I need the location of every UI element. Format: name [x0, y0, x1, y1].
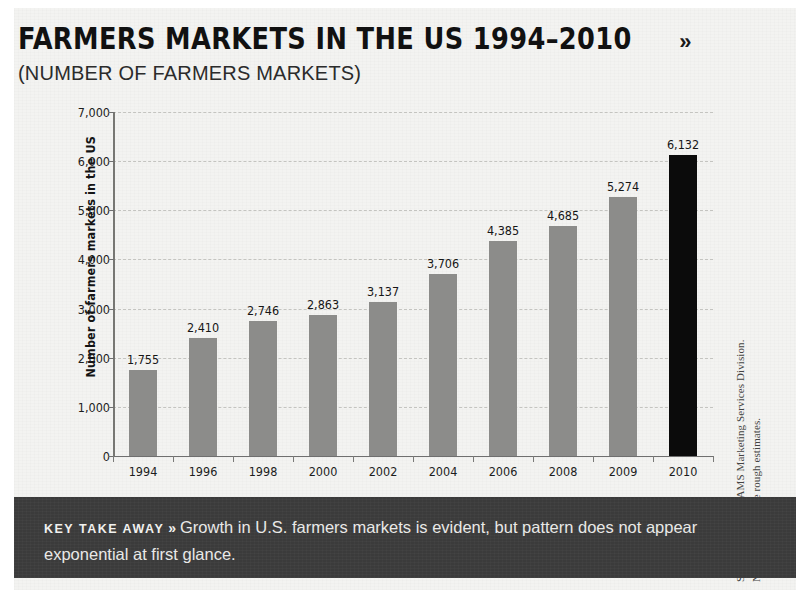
bar [309, 315, 337, 456]
x-axis-tick-labels: 1994199619982000200220042006200820092010 [113, 464, 713, 479]
chart-page: FARMERS MARKETS IN THE US 1994–2010 » (N… [0, 0, 806, 597]
x-axis-tick-label: 2004 [413, 464, 473, 479]
x-axis-tick-label: 2006 [473, 464, 533, 479]
bar-series: 1,7552,4102,7462,8633,1373,7064,3854,685… [113, 112, 713, 456]
chart-subtitle: (NUMBER OF FARMERS MARKETS) [18, 62, 758, 85]
bar [489, 241, 517, 456]
x-axis-tick-label: 2000 [293, 464, 353, 479]
bar [369, 302, 397, 456]
bar-group: 3,706 [413, 112, 473, 456]
y-axis-tick-label: 3,000 [78, 301, 110, 316]
bar-group: 2,410 [173, 112, 233, 456]
x-axis-tick-label: 1994 [113, 464, 173, 479]
x-axis-ticks [113, 456, 713, 462]
x-axis-tick-label: 1996 [173, 464, 233, 479]
y-axis-tick [108, 161, 114, 162]
title-row: FARMERS MARKETS IN THE US 1994–2010 » [18, 22, 758, 55]
x-axis-tick [713, 456, 714, 462]
x-axis-tick [473, 456, 474, 462]
key-takeaway-banner: KEY TAKE AWAY»Growth in U.S. farmers mar… [14, 497, 796, 578]
y-axis-tick [108, 259, 114, 260]
y-axis-tick [108, 358, 114, 359]
y-axis-tick-label: 7,000 [78, 105, 110, 120]
bar-group: 6,132 [653, 112, 713, 456]
x-axis-tick [233, 456, 234, 462]
bar-value-label: 2,863 [307, 297, 339, 312]
x-axis-tick-label: 2008 [533, 464, 593, 479]
y-axis-tick-label: 1,000 [78, 399, 110, 414]
bar-value-label: 1,755 [127, 352, 159, 367]
title-chevron-icon: » [679, 29, 691, 55]
x-axis-tick [353, 456, 354, 462]
bar-group: 4,685 [533, 112, 593, 456]
x-axis-tick-label: 1998 [233, 464, 293, 479]
x-axis-tick [653, 456, 654, 462]
bar-value-label: 4,685 [547, 208, 579, 223]
x-axis-tick [113, 456, 114, 462]
bar [189, 338, 217, 456]
chart-header: FARMERS MARKETS IN THE US 1994–2010 » (N… [18, 22, 758, 85]
bar-group: 1,755 [113, 112, 173, 456]
plot-area: 1,7552,4102,7462,8633,1373,7064,3854,685… [113, 112, 713, 456]
bar-group: 2,746 [233, 112, 293, 456]
bar-value-label: 6,132 [667, 137, 699, 152]
bar-value-label: 4,385 [487, 223, 519, 238]
x-axis-tick [533, 456, 534, 462]
key-takeaway-chevron-icon: » [168, 520, 176, 536]
page-title: FARMERS MARKETS IN THE US 1994–2010 [18, 22, 632, 55]
chart-region: Number of farmers markets in the US 01,0… [18, 112, 778, 480]
x-axis: 1994199619982000200220042006200820092010 [113, 456, 713, 486]
y-axis-tick-label: 2,000 [78, 350, 110, 365]
bar-value-label: 5,274 [607, 179, 639, 194]
bar [429, 274, 457, 456]
bar [669, 155, 697, 456]
y-axis-tick [108, 210, 114, 211]
bar [129, 370, 157, 456]
bar-group: 5,274 [593, 112, 653, 456]
bar-value-label: 3,137 [367, 284, 399, 299]
bar-value-label: 3,706 [427, 256, 459, 271]
bar-group: 3,137 [353, 112, 413, 456]
x-axis-tick [413, 456, 414, 462]
x-axis-tick-label: 2010 [653, 464, 713, 479]
bar [249, 321, 277, 456]
bar-group: 4,385 [473, 112, 533, 456]
x-axis-tick [173, 456, 174, 462]
y-axis-tick-label: 5,000 [78, 203, 110, 218]
key-takeaway-label: KEY TAKE AWAY [44, 522, 164, 536]
y-axis-tick-labels: 01,0002,0003,0004,0005,0006,0007,000 [54, 112, 110, 456]
y-axis-tick-label: 4,000 [78, 252, 110, 267]
bar-group: 2,863 [293, 112, 353, 456]
y-axis-tick [108, 309, 114, 310]
y-axis-tick-label: 6,000 [78, 154, 110, 169]
bar [549, 226, 577, 456]
key-takeaway-inner: KEY TAKE AWAY»Growth in U.S. farmers mar… [44, 514, 752, 567]
x-axis-tick [293, 456, 294, 462]
y-axis-tick [108, 407, 114, 408]
bar-value-label: 2,410 [187, 320, 219, 335]
x-axis-tick-label: 2009 [593, 464, 653, 479]
y-axis-tick [108, 112, 114, 113]
x-axis-tick-label: 2002 [353, 464, 413, 479]
bar-value-label: 2,746 [247, 303, 279, 318]
x-axis-tick [593, 456, 594, 462]
bar [609, 197, 637, 456]
